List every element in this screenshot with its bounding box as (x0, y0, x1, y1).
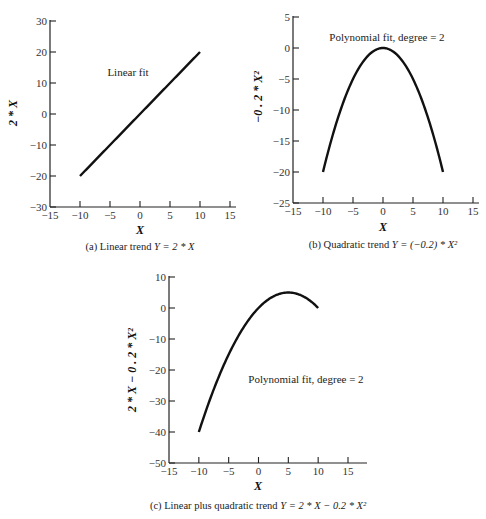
y-tick-label: −10 (30, 139, 48, 151)
x-tick-label: 0 (380, 205, 386, 217)
x-tick-label: −5 (347, 205, 359, 217)
y-tick-label: 30 (36, 15, 48, 27)
x-tick-label: 5 (167, 209, 173, 221)
xlabel-c: X (253, 479, 263, 493)
xlabel-b: X (378, 220, 388, 234)
y-tick-label: −15 (273, 135, 291, 147)
y-tick-label: −20 (273, 166, 291, 178)
fit-curve (199, 293, 318, 433)
x-tick-label: 15 (343, 465, 355, 477)
y-tick-label: 20 (36, 46, 48, 58)
y-tick-label: 10 (155, 271, 167, 283)
y-tick-label: 0 (42, 108, 48, 120)
y-tick-label: −20 (149, 364, 167, 376)
caption-a: (a) Linear trend Y = 2 * X (86, 241, 195, 253)
figure: −30−20−100102030−15−10−5051015 Linear fi… (0, 0, 486, 519)
y-tick-label: −5 (278, 73, 290, 85)
annotation-a: Linear fit (107, 66, 148, 78)
x-tick-label: 15 (225, 209, 237, 221)
caption-b: (b) Quadratic trend Y = (−0.2) * X² (309, 239, 458, 251)
y-tick-label: −40 (149, 426, 167, 438)
x-tick-label: 10 (313, 465, 325, 477)
x-tick-label: 0 (256, 465, 262, 477)
y-tick-label: −30 (149, 395, 167, 407)
x-tick-label: −10 (314, 205, 332, 217)
fit-curve (323, 48, 443, 172)
y-tick-label: 0 (161, 302, 167, 314)
y-tick-label: −20 (30, 170, 48, 182)
ylabel-c: 2 * X − 0 . 2 * X² (125, 328, 139, 413)
x-tick-label: 10 (438, 205, 450, 217)
annotation-c: Polynomial fit, degree = 2 (248, 373, 363, 385)
annotation-b: Polynomial fit, degree = 2 (329, 31, 444, 43)
x-tick-label: −15 (284, 205, 302, 217)
x-tick-label: 0 (137, 209, 143, 221)
chart-panel-a: −30−20−100102030−15−10−5051015 (30, 15, 236, 221)
ylabel-a: 2 * X (6, 99, 20, 127)
x-tick-label: 15 (468, 205, 480, 217)
y-tick-label: −10 (273, 104, 291, 116)
caption-c: (c) Linear plus quadratic trend Y = 2 * … (150, 500, 367, 512)
x-tick-label: 5 (410, 205, 416, 217)
ylabel-b: −0 . 2 * X² (251, 71, 265, 123)
x-tick-label: −10 (71, 209, 89, 221)
y-tick-label: 0 (285, 42, 291, 54)
x-tick-label: −15 (41, 209, 59, 221)
y-tick-label: −10 (149, 333, 167, 345)
y-tick-label: 5 (285, 11, 291, 23)
x-tick-label: 10 (195, 209, 207, 221)
x-tick-label: −5 (223, 465, 235, 477)
y-tick-label: 10 (36, 77, 48, 89)
x-tick-label: −15 (160, 465, 178, 477)
x-tick-label: −10 (190, 465, 208, 477)
x-tick-label: −5 (104, 209, 116, 221)
x-tick-label: 5 (286, 465, 292, 477)
xlabel-a: X (135, 223, 145, 237)
